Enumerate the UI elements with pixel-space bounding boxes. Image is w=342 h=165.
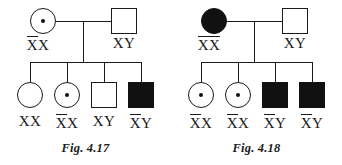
descent-line bbox=[254, 21, 255, 62]
offspring-4-genotype-plain: Y bbox=[312, 115, 323, 131]
mother-genotype-plain: X bbox=[38, 37, 49, 53]
sibship-line bbox=[201, 62, 312, 63]
sibship-drop-2 bbox=[238, 62, 239, 82]
offspring-2-symbol-carrier-female bbox=[225, 82, 251, 108]
sibship-drop-3 bbox=[275, 62, 276, 82]
offspring-2-genotype-barred: X bbox=[56, 114, 67, 131]
offspring-4-genotype: XY bbox=[116, 114, 166, 131]
offspring-4-genotype: XY bbox=[287, 114, 337, 131]
offspring-3-genotype-plain: Y bbox=[275, 115, 286, 131]
offspring-1-symbol-unaffected-female bbox=[17, 82, 43, 108]
father-genotype-plain: XY bbox=[113, 35, 135, 51]
sibship-drop-3 bbox=[104, 62, 105, 82]
mother-genotype: XX bbox=[8, 36, 68, 53]
offspring-1-genotype-plain: X bbox=[201, 115, 212, 131]
pedigree-figure-pair: XX XY XX XX XY XY Fig. 4.17 XX XY bbox=[0, 0, 342, 165]
offspring-1-genotype-barred: X bbox=[190, 114, 201, 131]
mother-genotype-barred: XX bbox=[198, 36, 220, 53]
father-symbol-unaffected-male bbox=[282, 8, 308, 34]
father-genotype: XY bbox=[94, 36, 154, 51]
offspring-2-genotype-plain: X bbox=[67, 115, 78, 131]
figure-caption: Fig. 4.18 bbox=[171, 141, 342, 156]
father-symbol-unaffected-male bbox=[111, 8, 137, 34]
offspring-4-symbol-affected-male bbox=[299, 82, 325, 108]
offspring-4-genotype-barred: X bbox=[301, 114, 312, 131]
sibship-drop-4 bbox=[141, 62, 142, 82]
mother-genotype: XX bbox=[179, 36, 239, 53]
sibship-drop-4 bbox=[312, 62, 313, 82]
father-genotype: XY bbox=[265, 36, 325, 51]
offspring-3-genotype-plain: XY bbox=[93, 113, 115, 129]
sibship-drop-2 bbox=[67, 62, 68, 82]
offspring-2-genotype-barred: X bbox=[227, 114, 238, 131]
offspring-2-symbol-carrier-female bbox=[54, 82, 80, 108]
figure-fig-4-18: XX XY XX XX XY XY Fig. 4.18 bbox=[171, 0, 342, 165]
offspring-3-symbol-affected-male bbox=[262, 82, 288, 108]
offspring-3-genotype-barred: X bbox=[264, 114, 275, 131]
offspring-1-genotype-plain: XX bbox=[19, 113, 41, 129]
descent-line bbox=[83, 21, 84, 62]
mother-symbol-carrier-female bbox=[30, 8, 56, 34]
offspring-4-genotype-plain: Y bbox=[141, 115, 152, 131]
sibship-line bbox=[30, 62, 141, 63]
father-genotype-plain: XY bbox=[284, 35, 306, 51]
figure-fig-4-17: XX XY XX XX XY XY Fig. 4.17 bbox=[0, 0, 171, 165]
figure-caption: Fig. 4.17 bbox=[0, 141, 171, 156]
mother-symbol-affected-female bbox=[201, 8, 227, 34]
sibship-drop-1 bbox=[30, 62, 31, 82]
mother-genotype-barred: X bbox=[27, 36, 38, 53]
offspring-4-symbol-affected-male bbox=[128, 82, 154, 108]
offspring-3-symbol-unaffected-male bbox=[91, 82, 117, 108]
offspring-4-genotype-barred: X bbox=[130, 114, 141, 131]
offspring-2-genotype-plain: X bbox=[238, 115, 249, 131]
sibship-drop-1 bbox=[201, 62, 202, 82]
offspring-1-symbol-carrier-female bbox=[188, 82, 214, 108]
